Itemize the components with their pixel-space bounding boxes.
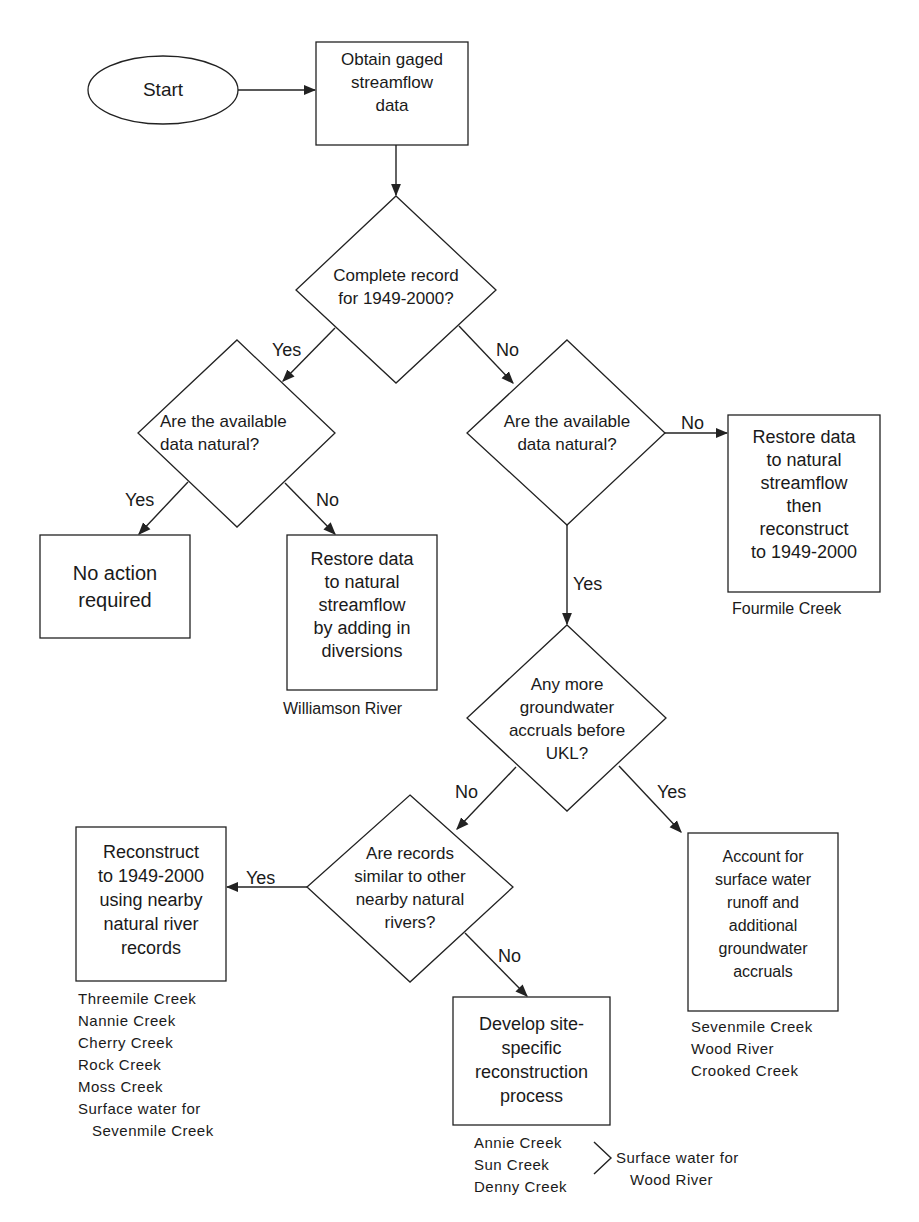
groundwater-label: Any more groundwater accruals before UKL… [497,673,637,765]
left-yes-label: Yes [125,490,154,510]
obtain-label: Obtain gaged streamflow data [316,48,468,117]
start-label: Start [113,78,213,101]
right-no-label: No [681,413,704,433]
restore-diversions-label: Restore data to natural streamflow by ad… [287,548,437,663]
reconstruct-nearby-label: Reconstruct to 1949-2000 using nearby na… [76,840,226,960]
complete-no-label: No [496,340,519,360]
restore-reconstruct-label: Restore data to natural streamflow then … [728,426,880,564]
similar-records-label: Are records similar to other nearby natu… [335,842,485,934]
complete-yes-label: Yes [272,340,301,360]
similar-no-label: No [498,946,521,966]
develop-rivers-list: Annie Creek Sun Creek Denny Creek [474,1132,567,1198]
develop-site-label: Develop site- specific reconstruction pr… [453,1012,610,1108]
left-no-label: No [316,490,339,510]
natural-left-label: Are the available data natural? [160,410,320,456]
nearby-rivers-list: Threemile Creek Nannie Creek Cherry Cree… [78,988,214,1142]
similar-yes-label: Yes [246,868,275,888]
natural-right-label: Are the available data natural? [487,410,647,456]
gw-yes-label: Yes [657,782,686,802]
right-yes-label: Yes [573,574,602,594]
gw-no-label: No [455,782,478,802]
account-rivers-list: Sevenmile Creek Wood River Crooked Creek [691,1016,813,1082]
no-action-label: No action required [40,560,190,614]
fourmile-note: Fourmile Creek [732,598,841,620]
complete-record-label: Complete record for 1949-2000? [316,264,476,310]
develop-group-note: Surface water for Wood River [616,1147,739,1191]
williamson-note: Williamson River [283,698,402,720]
account-surface-label: Account for surface water runoff and add… [688,845,838,983]
group-bracket-icon [594,1142,611,1174]
